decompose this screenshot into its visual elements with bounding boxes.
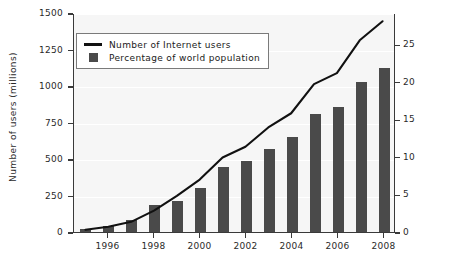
y-axis-left-tick (68, 196, 73, 197)
square-swatch-icon (83, 53, 103, 62)
y-axis-right-tick-label: 15 (403, 114, 427, 124)
y-axis-left-tick-label: 250 (31, 191, 63, 201)
x-axis-tick-label: 2002 (226, 241, 266, 251)
y-axis-right-tick-label: 20 (403, 77, 427, 87)
y-axis-left-tick-label: 1500 (31, 8, 63, 18)
x-axis-tick-label: 1998 (134, 241, 174, 251)
y-axis-right-tick-label: 10 (403, 152, 427, 162)
chart-container: Number of users (millions) Percentage of… (0, 0, 463, 264)
x-axis-tick (107, 233, 108, 238)
y-axis-right-tick (395, 195, 400, 196)
y-axis-right-tick-label: 0 (403, 227, 427, 237)
y-axis-left-tick (68, 232, 73, 233)
y-axis-left-tick (68, 123, 73, 124)
y-axis-left-tick-label: 0 (31, 227, 63, 237)
x-axis-tick (199, 233, 200, 238)
y-axis-left-tick (68, 13, 73, 14)
y-axis-left-tick-label: 500 (31, 154, 63, 164)
x-axis-tick-label: 2008 (364, 241, 404, 251)
y-axis-right-tick (395, 232, 400, 233)
line-key-icon (83, 43, 103, 45)
y-axis-left-tick (68, 159, 73, 160)
y-axis-right-tick (395, 120, 400, 121)
x-axis-tick (153, 233, 154, 238)
y-axis-left-tick-label: 750 (31, 118, 63, 128)
x-axis-tick-label: 2000 (180, 241, 220, 251)
y-axis-left-tick (68, 86, 73, 87)
legend-item-line: Number of Internet users (83, 38, 260, 51)
y-axis-right-tick-label: 5 (403, 189, 427, 199)
legend-label-line: Number of Internet users (109, 40, 231, 50)
y-axis-right-tick (395, 157, 400, 158)
y-axis-left-tick (68, 50, 73, 51)
y-axis-right-tick-label: 25 (403, 39, 427, 49)
x-axis-tick-label: 2004 (272, 241, 312, 251)
x-axis-tick-label: 2006 (318, 241, 358, 251)
y-axis-left-tick-label: 1250 (31, 45, 63, 55)
chart-legend: Number of Internet users Percentage of w… (76, 33, 269, 69)
x-axis-tick-label: 1996 (88, 241, 128, 251)
y-axis-left-tick-label: 1000 (31, 81, 63, 91)
y-axis-right-tick (395, 45, 400, 46)
x-axis-tick (245, 233, 246, 238)
y-axis-left-title: Number of users (millions) (8, 42, 18, 192)
legend-label-bar: Percentage of world population (109, 53, 260, 63)
x-axis-tick (337, 233, 338, 238)
x-axis-tick (291, 233, 292, 238)
y-axis-right-tick (395, 82, 400, 83)
x-axis-tick (383, 233, 384, 238)
legend-item-bar: Percentage of world population (83, 51, 260, 64)
